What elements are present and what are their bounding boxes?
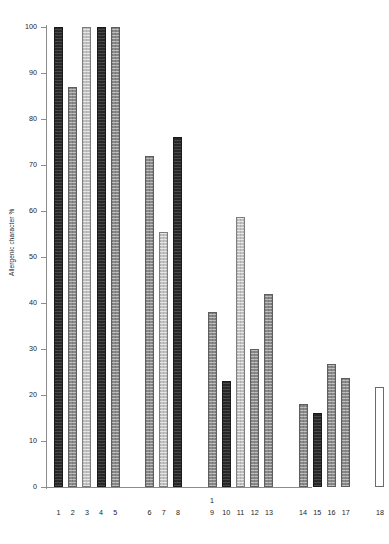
bar-12: [250, 349, 259, 487]
x-axis-label-17: 17: [337, 509, 355, 516]
y-tick-label-90: 90: [11, 69, 37, 76]
bar-11: [236, 217, 245, 487]
y-tick-label-10: 10: [11, 437, 37, 444]
bar-18: [375, 387, 384, 487]
bar-5: [111, 27, 120, 487]
y-tick-label-30: 30: [11, 345, 37, 352]
x-axis-label-5: 5: [106, 509, 124, 516]
y-tick-label-80: 80: [11, 115, 37, 122]
x-axis-label-13: 13: [260, 509, 278, 516]
bar-8: [173, 137, 182, 487]
bar-13: [264, 294, 273, 487]
bar-9: [208, 312, 217, 487]
bar-10: [222, 381, 231, 487]
bar-3: [82, 27, 91, 487]
x-axis-label-8: 8: [169, 509, 187, 516]
y-tick-label-100: 100: [11, 23, 37, 30]
x-axis-footnote-marker: 1: [203, 497, 221, 504]
y-tick-label-0: 0: [11, 483, 37, 490]
y-tick-label-40: 40: [11, 299, 37, 306]
bar-17: [341, 378, 350, 487]
bar-14: [299, 404, 308, 487]
bar-1: [54, 27, 63, 487]
bar-4: [97, 27, 106, 487]
y-tick-label-70: 70: [11, 161, 37, 168]
x-axis-label-18: 18: [371, 509, 389, 516]
y-tick-label-20: 20: [11, 391, 37, 398]
x-axis-line: [46, 487, 312, 488]
plot-area: [46, 27, 311, 487]
y-tick-0: [41, 487, 47, 488]
bar-7: [159, 232, 168, 487]
y-tick-label-50: 50: [11, 253, 37, 260]
bar-15: [313, 413, 322, 487]
bar-16: [327, 364, 336, 487]
bar-2: [68, 87, 77, 487]
y-tick-label-60: 60: [11, 207, 37, 214]
bar-6: [145, 156, 154, 487]
